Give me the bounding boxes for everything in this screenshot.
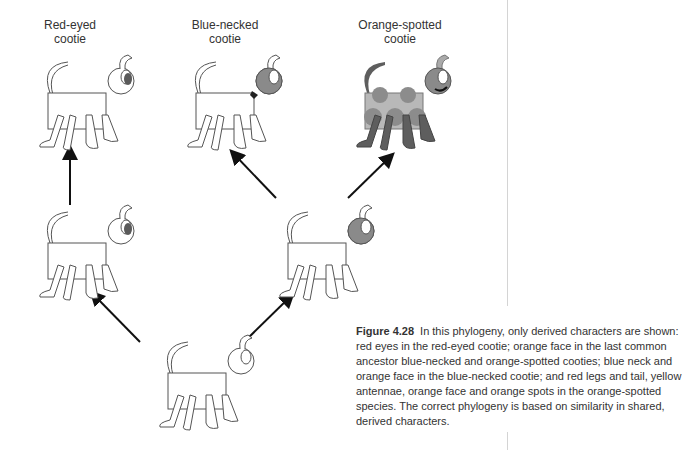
- label-blue-necked: Blue-necked cootie: [170, 18, 280, 46]
- cootie-red-eyed-ancestor: [40, 205, 134, 300]
- label-line1: Red-eyed: [15, 18, 125, 32]
- label-line2: cootie: [15, 32, 125, 46]
- label-orange-spotted: Orange-spotted cootie: [345, 18, 455, 46]
- label-line2: cootie: [345, 32, 455, 46]
- cootie-orange-spotted: [357, 55, 451, 150]
- figure-caption: Figure 4.28In this phylogeny, only deriv…: [356, 324, 686, 429]
- cootie-red-eyed: [40, 55, 134, 150]
- label-line1: Blue-necked: [170, 18, 280, 32]
- figure-number: Figure 4.28: [356, 325, 414, 337]
- cootie-ancestor: [160, 335, 254, 430]
- label-line1: Orange-spotted: [345, 18, 455, 32]
- label-red-eyed: Red-eyed cootie: [15, 18, 125, 46]
- label-line2: cootie: [170, 32, 280, 46]
- column-divider-bottom: [507, 432, 508, 450]
- column-divider-top: [507, 0, 508, 306]
- cootie-blue-necked: [188, 55, 282, 150]
- cootie-orange-face-ancestor: [280, 205, 374, 300]
- caption-text: In this phylogeny, only derived characte…: [356, 325, 681, 427]
